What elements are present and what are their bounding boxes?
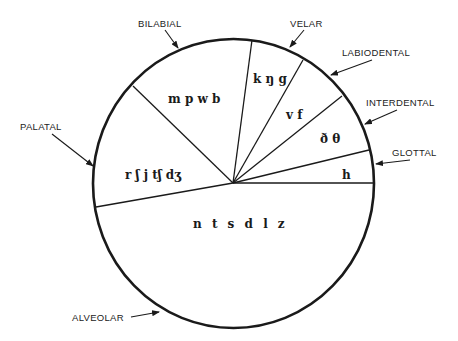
palatal-arrow bbox=[52, 134, 93, 166]
labiodental-label: LABIODENTAL bbox=[342, 47, 410, 58]
labiodental-sounds: v f bbox=[285, 108, 303, 122]
interdental-arrow bbox=[365, 110, 397, 124]
bilabial-arrow bbox=[165, 30, 178, 48]
velar-sounds: k ŋ g bbox=[253, 72, 287, 86]
palatal-label: PALATAL bbox=[20, 121, 62, 132]
glottal-sounds: h bbox=[342, 168, 351, 182]
glottal-arrow bbox=[376, 160, 410, 164]
interdental-sounds: ð θ bbox=[320, 132, 340, 146]
velar-label: VELAR bbox=[290, 18, 323, 29]
glottal-label: GLOTTAL bbox=[392, 147, 437, 158]
place-of-articulation-diagram: m p w b k ŋ g v f ð θ h n t s d l z r ʃ … bbox=[0, 0, 458, 341]
palatal-sounds: r ʃ j tʃ dʒ bbox=[125, 168, 182, 182]
labiodental-arrow bbox=[331, 60, 372, 75]
velar-arrow bbox=[290, 30, 304, 47]
interdental-label: INTERDENTAL bbox=[366, 97, 435, 108]
alveolar-sounds: n t s d l z bbox=[193, 217, 288, 231]
alveolar-label: ALVEOLAR bbox=[72, 312, 124, 323]
alveolar-arrow bbox=[131, 312, 159, 317]
bilabial-label: BILABIAL bbox=[138, 18, 182, 29]
bilabial-sounds: m p w b bbox=[168, 92, 220, 106]
